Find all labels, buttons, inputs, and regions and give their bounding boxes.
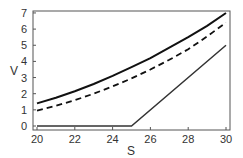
value-solid-line (37, 13, 226, 103)
option-value-chart: 01234567 202224262830 V S (0, 0, 243, 158)
y-tick-label: 5 (21, 39, 27, 51)
y-tick-label: 6 (21, 23, 27, 35)
x-tick-label: 28 (182, 133, 194, 145)
x-tick-label: 26 (144, 133, 156, 145)
y-tick-label: 4 (21, 55, 27, 67)
y-tick-label: 7 (21, 7, 27, 19)
y-tick-label: 3 (21, 72, 27, 84)
x-tick-label: 24 (106, 133, 118, 145)
y-tick-label: 1 (21, 104, 27, 116)
x-axis-label: S (127, 144, 135, 158)
y-axis-label: V (10, 64, 18, 78)
y-tick-label: 2 (21, 88, 27, 100)
x-tick-label: 20 (31, 133, 43, 145)
x-tick-label: 22 (69, 133, 81, 145)
y-tick-label: 0 (21, 120, 27, 132)
y-axis-ticks: 01234567 (21, 7, 36, 132)
payoff-line (37, 45, 226, 126)
data-lines (37, 13, 226, 126)
x-tick-label: 30 (220, 133, 232, 145)
